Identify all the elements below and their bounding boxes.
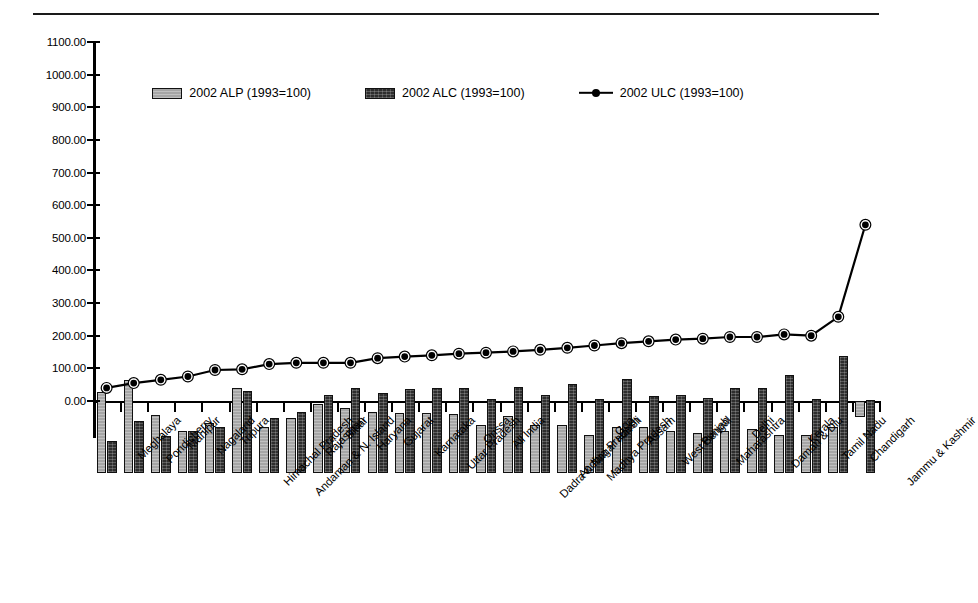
bar-alc — [541, 395, 551, 473]
y-tick-mark — [87, 204, 100, 206]
bar-alc — [107, 441, 117, 473]
x-tick-mark — [689, 401, 691, 412]
y-tick-label: 1100.00 — [47, 36, 86, 48]
x-tick-mark — [391, 401, 393, 412]
y-tick-label: 100.00 — [52, 362, 86, 374]
y-tick-label: 0.00 — [64, 395, 86, 407]
x-tick-mark — [174, 401, 176, 412]
x-tick-mark — [879, 401, 881, 412]
x-tick-mark — [256, 401, 258, 412]
bar-alp — [124, 380, 134, 473]
bar-alc — [568, 384, 578, 473]
y-tick-mark — [87, 74, 100, 76]
y-tick-mark — [87, 41, 100, 43]
plot-area — [93, 42, 879, 437]
y-tick-label: 400.00 — [52, 264, 86, 276]
x-tick-mark — [364, 401, 366, 412]
y-tick-label: 500.00 — [52, 232, 86, 244]
x-tick-mark — [581, 401, 583, 412]
x-tick-label: Jammu & Kashmir — [905, 414, 978, 488]
x-tick-mark — [93, 401, 95, 412]
x-tick-mark — [635, 401, 637, 412]
top-divider-rule — [33, 13, 879, 15]
y-tick-label: 800.00 — [52, 134, 86, 146]
bar-alp — [557, 425, 567, 473]
bar-alp — [720, 431, 730, 473]
y-tick-mark — [87, 269, 100, 271]
y-tick-label: 200.00 — [52, 330, 86, 342]
x-tick-mark — [743, 401, 745, 412]
bar-alc — [270, 418, 280, 473]
x-tick-mark — [120, 401, 122, 412]
x-tick-mark — [500, 401, 502, 412]
y-tick-mark — [87, 367, 100, 369]
x-tick-mark — [771, 401, 773, 412]
x-tick-mark — [798, 401, 800, 412]
x-tick-mark — [445, 401, 447, 412]
x-tick-mark — [310, 401, 312, 412]
x-tick-mark — [662, 401, 664, 412]
x-tick-mark — [201, 401, 203, 412]
y-tick-mark — [87, 335, 100, 337]
y-tick-label: 700.00 — [52, 167, 86, 179]
bar-alc — [432, 388, 442, 474]
y-tick-label: 900.00 — [52, 101, 86, 113]
x-tick-mark — [229, 401, 231, 412]
y-tick-label: 600.00 — [52, 199, 86, 211]
x-tick-mark — [608, 401, 610, 412]
y-tick-mark — [87, 106, 100, 108]
x-tick-mark — [472, 401, 474, 412]
x-tick-mark — [852, 401, 854, 412]
bar-alp — [259, 427, 269, 473]
bar-alp — [774, 435, 784, 474]
x-tick-mark — [337, 401, 339, 412]
x-tick-mark — [527, 401, 529, 412]
x-tick-mark — [825, 401, 827, 412]
bar-alp — [855, 401, 865, 417]
bar-alp — [666, 431, 676, 473]
x-tick-mark — [147, 401, 149, 412]
y-tick-mark — [87, 172, 100, 174]
bar-alp — [97, 392, 107, 473]
x-tick-mark — [283, 401, 285, 412]
y-tick-mark — [87, 302, 100, 304]
y-tick-mark — [87, 237, 100, 239]
y-tick-label: 300.00 — [52, 297, 86, 309]
y-tick-mark — [87, 139, 100, 141]
x-tick-mark — [716, 401, 718, 412]
y-axis-labels: 0.00100.00200.00300.00400.00500.00600.00… — [0, 42, 86, 437]
x-tick-mark — [418, 401, 420, 412]
x-tick-mark — [554, 401, 556, 412]
y-tick-label: 1000.00 — [46, 69, 86, 81]
